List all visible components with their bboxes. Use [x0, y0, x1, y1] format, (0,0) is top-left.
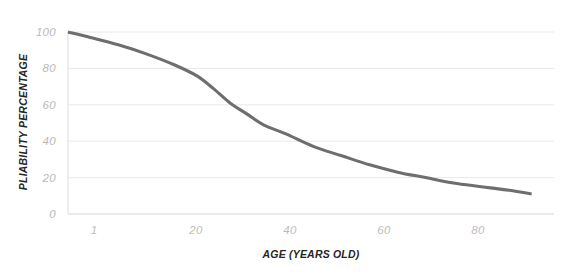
- x-tick-label-20: 20: [176, 224, 216, 236]
- x-tick-label-60: 60: [364, 224, 404, 236]
- x-tick-label-1: 1: [74, 224, 114, 236]
- x-tick-label-40: 40: [270, 224, 310, 236]
- y-axis-title: PLIABILITY PERCENTAGE: [12, 12, 34, 232]
- x-axis-title: AGE (YEARS OLD): [68, 248, 554, 260]
- series-line-0: [68, 32, 532, 194]
- x-tick-label-80: 80: [458, 224, 498, 236]
- chart-container: 100 80 60 40 20 0 1 20 40 60 80 PLIABILI…: [0, 0, 566, 277]
